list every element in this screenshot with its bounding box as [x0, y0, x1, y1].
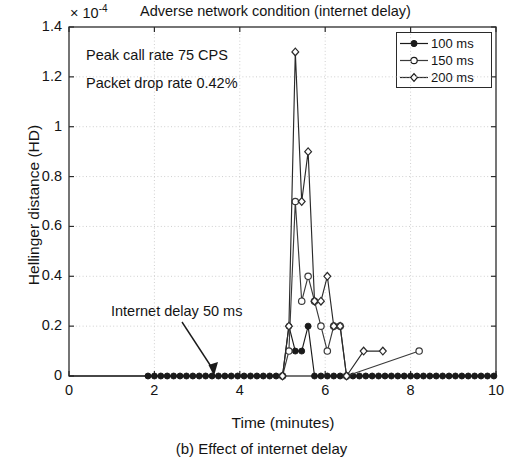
- y-tick-label: 1.2: [28, 68, 62, 84]
- x-tick-label: 6: [310, 382, 340, 398]
- figure-caption: (b) Effect of internet delay: [0, 440, 523, 457]
- x-tick-label: 8: [396, 382, 426, 398]
- y-tick-label: 0.4: [28, 267, 62, 283]
- y-tick-label: 1.4: [28, 18, 62, 34]
- y-tick-label: 1: [28, 118, 62, 134]
- x-tick-label: 4: [225, 382, 255, 398]
- figure-panel: × 10-4 Adverse network condition (intern…: [0, 0, 523, 471]
- chart-plot-area: [0, 0, 523, 471]
- y-tick-label: 0.8: [28, 168, 62, 184]
- x-tick-label: 0: [54, 382, 84, 398]
- x-tick-label: 2: [139, 382, 169, 398]
- y-tick-label: 0.2: [28, 317, 62, 333]
- x-tick-label: 10: [481, 382, 511, 398]
- y-tick-label: 0.6: [28, 217, 62, 233]
- y-tick-label: 0: [28, 367, 62, 383]
